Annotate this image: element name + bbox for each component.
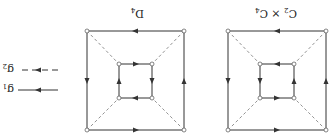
graph-title-d4: D4 [130, 6, 144, 20]
cayley-graphs-figure: g1 g2 D4 [0, 0, 331, 137]
legend-g2-label: g2 [2, 62, 14, 76]
graph-c2xc4: C2 × C4 [226, 6, 329, 133]
arrow-icon [35, 68, 41, 73]
diagram-canvas: g1 g2 D4 [0, 0, 331, 137]
legend: g1 g2 [2, 62, 58, 96]
legend-g1-label: g1 [2, 82, 14, 96]
graph-title-c2xc4: C2 × C4 [254, 6, 297, 20]
graph-d4: D4 [85, 6, 187, 133]
arrow-icon [35, 88, 41, 93]
